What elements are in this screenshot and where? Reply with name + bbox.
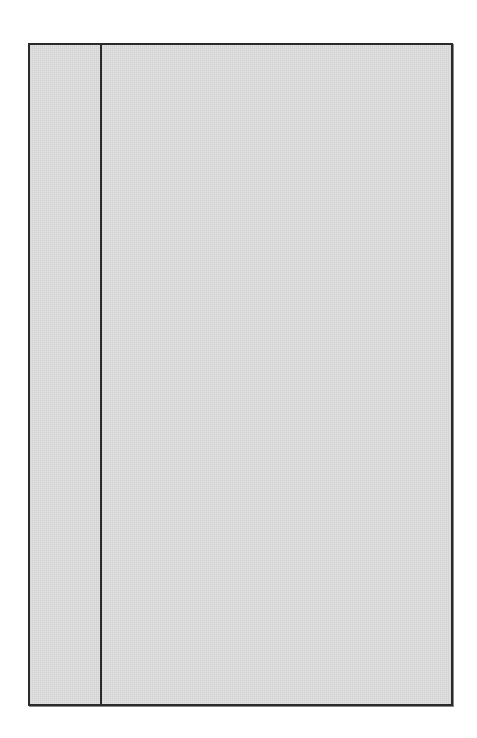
- panel-frame: [28, 43, 453, 706]
- left-pane: [30, 45, 102, 704]
- right-pane: [102, 45, 451, 704]
